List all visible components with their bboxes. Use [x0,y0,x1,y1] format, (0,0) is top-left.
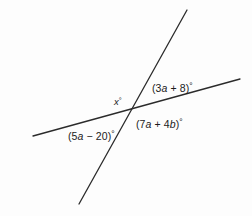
degree-symbol: ° [179,117,183,127]
angle-expression-prefix: (3 [152,82,162,94]
angle-label-lower-right: (7a + 4b)° [136,116,183,130]
degree-symbol: ° [189,81,193,91]
degree-symbol: ° [119,96,122,105]
degree-symbol: ° [111,129,115,139]
angle-label-x: x° [114,95,122,108]
geometry-diagram: (3a + 8)° (7a + 4b)° (5a − 20)° x° [0,0,252,216]
angle-expression-suffix: + 8) [168,82,190,94]
angle-expression-prefix: (5 [68,130,78,142]
angle-expression-suffix: − 20) [84,130,112,142]
angle-label-upper-right: (3a + 8)° [152,80,193,94]
angle-label-lower-left: (5a − 20)° [68,128,115,142]
steep-line [79,10,187,204]
angle-expression-prefix: (7 [136,118,146,130]
angle-expression-middle: + 4 [152,118,170,130]
intersecting-lines-figure [0,0,252,216]
